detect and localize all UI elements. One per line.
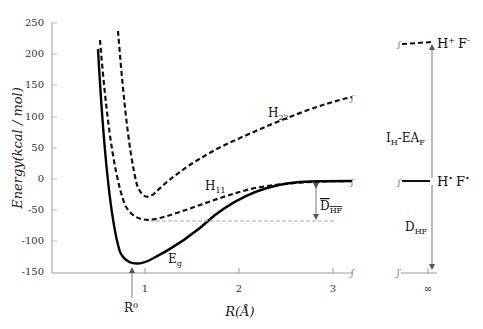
label-dhf-bar: DHF	[320, 199, 343, 215]
curve-eg	[98, 49, 352, 264]
label-dhf: DHF	[405, 220, 428, 236]
curve-h11	[100, 40, 352, 220]
label-ih-ea: IH-EAF	[386, 131, 425, 147]
break-h22: ʃ	[349, 94, 355, 103]
y-tick-neg50: -50	[28, 204, 44, 215]
label-h22: H22	[268, 106, 289, 122]
axis-break-right: ʃ	[395, 268, 401, 278]
x-tick-inf: ∞	[424, 283, 432, 294]
label-radical-pair: H•F•	[437, 174, 470, 189]
x-tick-1: 1	[142, 283, 148, 294]
y-tick-250: 250	[25, 17, 44, 28]
y-axis-title: Energy(kcal / mol)	[10, 87, 25, 210]
y-tick-0: 0	[38, 173, 44, 184]
ion-asymptote	[402, 42, 432, 44]
y-axis: 250 200 150 100 50 0 -50 -100 -150 Energ…	[10, 17, 57, 277]
label-ion-pair: H+F-	[437, 36, 470, 51]
y-tick-neg150: -150	[22, 266, 44, 277]
y-tick-100: 100	[25, 111, 44, 122]
potential-energy-chart: 250 200 150 100 50 0 -50 -100 -150 Energ…	[0, 0, 483, 329]
x-axis-title: R(Å)	[224, 304, 254, 319]
x-axis: ʃ ʃ 1 2 3 ∞ R(Å)	[52, 268, 437, 319]
x-tick-3: 3	[330, 283, 336, 294]
label-h11: H11	[205, 179, 226, 195]
x-tick-2: 2	[236, 283, 242, 294]
y-tick-200: 200	[25, 48, 44, 59]
label-r0: R0	[124, 301, 138, 315]
curve-h22	[118, 31, 352, 197]
break-ion-left: ʃ	[396, 40, 402, 49]
y-tick-150: 150	[25, 79, 44, 90]
y-tick-50: 50	[31, 142, 44, 153]
label-eg: Eg	[168, 252, 182, 268]
y-tick-neg100: -100	[22, 235, 44, 246]
break-h11: ʃ	[349, 178, 355, 187]
break-rad-left: ʃ	[396, 178, 402, 187]
